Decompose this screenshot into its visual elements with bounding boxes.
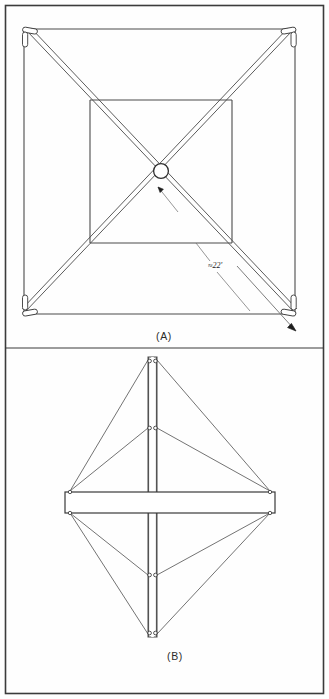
corner-fitting-top-right [281,27,297,47]
dimension-leader-lower [217,272,250,311]
center-hub [154,164,169,179]
corner-fitting-top-left [22,27,38,47]
panel-a-caption: (A) [156,330,172,342]
horizontal-beam [65,492,275,513]
figure-root: ≈22' (A) [0,0,329,699]
drawing-border [6,6,324,694]
technical-drawing-canvas: ≈22' (A) [0,0,329,699]
panel-b-elevation-view: (B) [65,357,275,662]
dimension-leader-upper [196,243,210,261]
guy-wires-upper [70,360,270,491]
corner-fitting-bottom-left [22,295,38,316]
panel-b-caption: (B) [167,650,183,662]
guy-wires-lower [70,513,270,634]
inner-arrow-head-icon [158,187,178,212]
panel-a-plan-view: ≈22' (A) [22,27,297,342]
dimension-label-22ft: ≈22' [208,261,222,270]
